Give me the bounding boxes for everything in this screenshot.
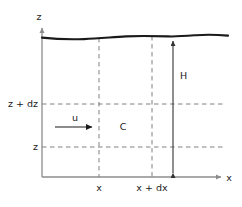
control-volume-label: C [120,121,127,132]
x-tick-label-x-plus-dx: x + dx [136,182,168,193]
y-tick-label-z-plus-dz: z + dz [8,98,38,109]
y-tick-label-z: z [33,141,38,152]
dashed-gridlines-group [42,36,226,177]
y-axis-label: z [37,11,42,22]
x-axis-label: x [226,172,232,183]
figure-container: z x H u C z + dz z x x + dx [0,0,242,207]
control-volume-diagram: z x H u C z + dz z x x + dx [0,0,242,207]
x-tick-label-x: x [96,182,102,193]
free-surface-wavy-line [42,35,228,40]
velocity-label: u [72,112,78,123]
height-label: H [180,70,187,81]
